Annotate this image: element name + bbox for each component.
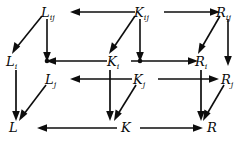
node-base-Rij: R (216, 5, 226, 20)
edge-Rij-to-Rj (224, 19, 232, 66)
node-sub-Lj: j (54, 80, 57, 89)
node-base-Ri: R (195, 54, 205, 69)
edge-Kij-to-Ki (109, 16, 135, 54)
node-label-Kj: Kj (133, 73, 145, 86)
node-sub-Rij: ij (226, 13, 231, 22)
edge-Ki-to-Li (46, 57, 107, 65)
node-label-Kij: Kij (134, 6, 149, 19)
node-label-L: L (9, 121, 18, 134)
edge-Lj-to-L (19, 85, 46, 121)
node-base-Rj: R (221, 72, 231, 87)
node-label-Rij: Rij (216, 6, 231, 19)
junction-dot-L-middle (45, 59, 50, 64)
node-sub-Kj: j (143, 80, 146, 89)
edge-Lij-to-Li (12, 16, 42, 54)
node-base-L: L (9, 120, 18, 135)
node-base-K: K (121, 120, 131, 135)
commutative-diagram: Lij Kij Rij Li Ki Ri Lj Kj Rj L K R (0, 0, 248, 143)
node-label-Rj: Rj (221, 73, 233, 86)
edge-Ki-to-K (106, 70, 114, 121)
node-label-Lij: Lij (41, 6, 55, 19)
edge-Ri-to-R (197, 70, 205, 121)
node-base-Li: L (6, 54, 15, 69)
edge-Kj-to-Lj (70, 75, 132, 83)
node-label-Lj: Lj (45, 73, 56, 86)
edge-Kij-to-Kj (136, 19, 144, 62)
node-base-Ki: K (107, 54, 117, 69)
node-base-Kj: K (133, 72, 143, 87)
edge-Kj-to-Rj (158, 75, 219, 83)
edge-K-to-R (140, 124, 203, 132)
edge-Rij-to-Ri (198, 16, 220, 54)
node-sub-Ki: i (117, 62, 120, 71)
edge-Kj-to-K (114, 85, 136, 121)
edge-K-to-L (37, 124, 117, 132)
node-label-Ri: Ri (195, 55, 207, 68)
node-sub-Kij: ij (144, 13, 149, 22)
edge-Lij-to-Lj (43, 19, 51, 62)
node-sub-Li: i (15, 62, 18, 71)
node-sub-Lij: ij (50, 13, 55, 22)
node-label-K: K (121, 121, 131, 134)
node-base-Lj: L (45, 72, 54, 87)
edge-Rj-to-R (203, 85, 224, 121)
node-base-R: R (207, 120, 217, 135)
edge-Kij-to-Rij (164, 8, 220, 16)
node-base-Kij: K (134, 5, 144, 20)
node-base-Lij: L (41, 5, 50, 20)
edge-Li-to-L (12, 70, 20, 121)
node-label-Ki: Ki (107, 55, 119, 68)
junction-dot-K-middle (138, 59, 143, 64)
edge-Kij-to-Lij (70, 8, 135, 16)
node-label-R: R (207, 121, 217, 134)
node-label-Li: Li (6, 55, 17, 68)
